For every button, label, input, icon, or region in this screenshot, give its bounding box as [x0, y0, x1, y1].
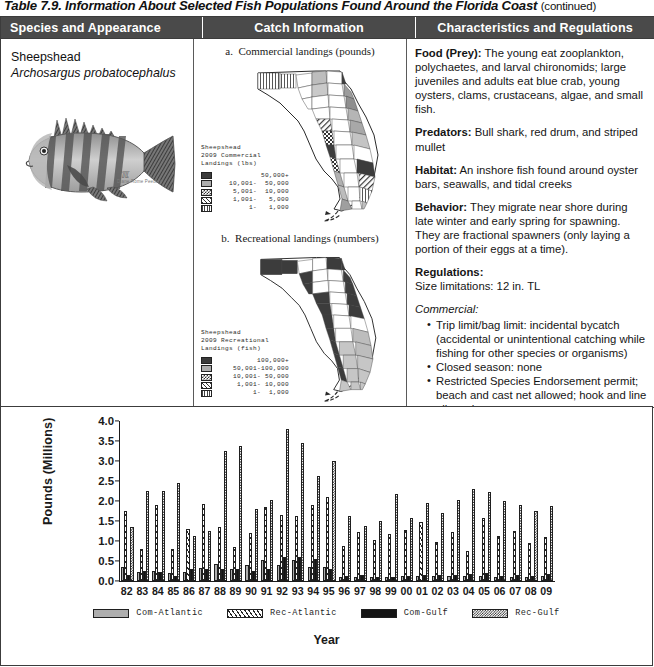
chart-x-tick-label: 95 — [323, 585, 335, 597]
chart-bar-group — [385, 494, 397, 581]
legend-label: 1,001- 5,000 — [215, 196, 289, 204]
chart-y-tick-label: 0.5 — [98, 555, 114, 567]
chart-y-tick-mark — [115, 440, 119, 441]
map-a-legend: Sheepshead 2009 Commercial Landings (lbs… — [201, 144, 289, 213]
map-b-title: b. Recreational landings (numbers) — [194, 232, 406, 244]
chart-bar — [224, 451, 227, 581]
chart-bar — [270, 500, 273, 581]
landings-bar-chart-panel: Pounds (Millions) 0.00.51.01.52.02.53.03… — [0, 406, 653, 666]
regulations-label: Regulations: — [415, 266, 483, 278]
chart-bar — [130, 527, 133, 581]
chart-bar-group — [541, 506, 553, 581]
chart-x-tick-label: 06 — [494, 585, 506, 597]
column-header-catch: Catch Information — [202, 17, 415, 38]
chart-bar — [419, 522, 422, 581]
chart-y-tick-label: 4.0 — [98, 415, 114, 427]
chart-x-tick-label: 92 — [276, 585, 288, 597]
chart-bar — [208, 531, 211, 581]
food-paragraph: Food (Prey): The young eat zooplankton, … — [415, 46, 648, 116]
legend-label: 1,001- 10,000 — [215, 381, 289, 389]
behavior-paragraph: Behavior: They migrate near shore during… — [415, 200, 648, 256]
size-limitations: Size limitations: 12 in. TL — [415, 279, 648, 293]
chart-bar-group — [121, 511, 133, 581]
legend-swatch — [227, 609, 263, 618]
chart-y-axis-label: Pounds (Millions) — [41, 417, 55, 525]
predators-label: Predators: — [415, 126, 472, 138]
chart-y-tick-mark — [115, 480, 119, 481]
chart-x-tick-label: 82 — [121, 585, 133, 597]
chart-bar — [497, 536, 500, 581]
chart-bar — [348, 516, 351, 581]
map-b-label: b. — [221, 232, 229, 244]
legend-label: Rec-Gulf — [515, 608, 559, 618]
chart-bar — [488, 492, 491, 581]
chart-x-tick-label: 99 — [385, 585, 397, 597]
chart-x-axis — [119, 581, 555, 582]
chart-bar — [410, 518, 413, 581]
chart-bar-group — [416, 503, 428, 581]
chart-bar — [301, 443, 304, 581]
legend-item: 5,001- 10,000 — [201, 188, 289, 196]
legend-item: 50,001-100,000 — [201, 365, 289, 373]
chart-x-tick-label: 97 — [354, 585, 366, 597]
legend-item: 100,000+ — [201, 357, 289, 365]
chart-x-tick-label: 84 — [152, 585, 164, 597]
legend-swatch-diagonal — [201, 197, 212, 204]
map-b-legend: Sheepshead 2009 Recreational Landings (f… — [201, 329, 289, 398]
chart-bar-group — [479, 492, 491, 581]
chart-bar — [482, 518, 485, 581]
chart-y-tick-label: 3.5 — [98, 435, 114, 447]
chart-bar — [146, 491, 149, 581]
chart-plot-area: 0.00.51.01.52.02.53.03.54.08283848586878… — [119, 421, 554, 581]
chart-bar — [550, 506, 553, 581]
fish-info-table: Species and Appearance Catch Information… — [0, 16, 654, 408]
legend-item: 10,001- 50,000 — [201, 373, 289, 381]
legend-item: 1- 1,000 — [201, 389, 289, 397]
legend-swatch-dark — [201, 172, 212, 179]
chart-bar-group — [354, 526, 366, 581]
page-root: Table 7.9. Information About Selected Fi… — [0, 0, 654, 667]
chart-bar — [513, 531, 516, 581]
chart-x-tick-label: 87 — [199, 585, 211, 597]
chart-y-tick-mark — [115, 520, 119, 521]
legend-label: Com-Atlantic — [136, 608, 203, 618]
chart-x-axis-title: Year — [1, 633, 652, 647]
legend-label: Rec-Atlantic — [270, 608, 337, 618]
chart-bar — [193, 536, 196, 581]
chart-bar — [426, 503, 429, 581]
chart-bar-group — [447, 500, 459, 581]
legend-item: 1,001- 10,000 — [201, 381, 289, 389]
column-header-characteristics: Characteristics and Regulations — [415, 17, 654, 38]
chart-bar — [364, 526, 367, 581]
regulations-heading: Regulations: — [415, 265, 648, 279]
table-body-row: Sheepshead Archosargus probatocephalus — [1, 38, 654, 407]
cell-species-appearance: Sheepshead Archosargus probatocephalus — [1, 39, 193, 407]
map-a-legend-line-2: 2009 Commercial — [201, 152, 289, 160]
chart-x-tick-label: 88 — [214, 585, 226, 597]
legend-item: 50,000+ — [201, 172, 289, 180]
chart-x-tick-label: 96 — [338, 585, 350, 597]
caption-text: Table 7.9. Information About Selected Fi… — [4, 0, 537, 13]
chart-bar — [286, 429, 289, 581]
chart-bar-group — [261, 500, 273, 581]
chart-bar-group — [432, 513, 444, 581]
chart-bar — [503, 501, 506, 581]
chart-y-axis — [119, 421, 120, 581]
chart-bar-group — [401, 518, 413, 581]
chart-y-tick-label: 2.5 — [98, 475, 114, 487]
chart-bar — [239, 446, 242, 581]
legend-item: 10,001- 50,000 — [201, 180, 289, 188]
legend-item: Rec-Gulf — [472, 608, 559, 618]
list-item: Closed season: none — [429, 360, 648, 374]
chart-x-tick-label: 00 — [401, 585, 413, 597]
chart-bar-group — [183, 529, 195, 581]
map-b-legend-line-2: 2009 Recreational — [201, 337, 289, 345]
chart-bar — [388, 534, 391, 581]
legend-label: 1- 1,000 — [215, 204, 289, 212]
legend-swatch-vertical — [201, 205, 212, 212]
chart-bar — [472, 489, 475, 581]
list-item: Trip limit/bag limit: incidental bycatch… — [429, 318, 648, 360]
habitat-label: Habitat: — [415, 164, 457, 176]
species-common-name: Sheepshead — [11, 49, 81, 65]
legend-swatch-gray — [201, 365, 212, 372]
